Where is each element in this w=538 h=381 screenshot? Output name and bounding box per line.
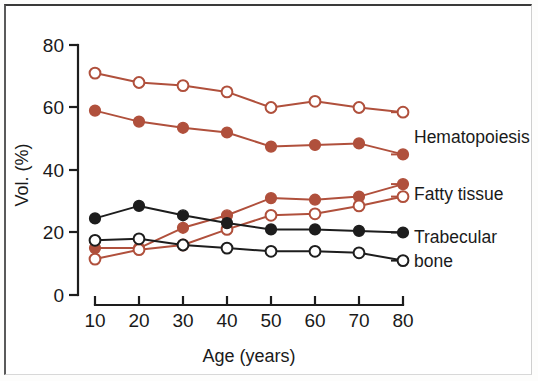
data-point bbox=[398, 227, 409, 238]
data-point bbox=[398, 191, 409, 202]
data-point bbox=[266, 141, 277, 152]
data-point bbox=[90, 254, 101, 265]
x-tick-label-60: 60 bbox=[304, 310, 325, 331]
data-point bbox=[134, 244, 145, 255]
x-tick-labels: 10 20 30 40 50 60 70 80 bbox=[84, 310, 413, 331]
x-tick-label-70: 70 bbox=[348, 310, 369, 331]
data-point bbox=[134, 116, 145, 127]
data-point bbox=[90, 213, 101, 224]
data-point bbox=[398, 179, 409, 190]
y-tick-label-0: 0 bbox=[53, 285, 64, 306]
data-point bbox=[310, 246, 321, 257]
data-point bbox=[354, 226, 365, 237]
y-tick-label-20: 20 bbox=[43, 222, 64, 243]
data-point bbox=[266, 210, 277, 221]
x-tick-label-30: 30 bbox=[172, 310, 193, 331]
data-point bbox=[354, 138, 365, 149]
x-tick-label-80: 80 bbox=[392, 310, 413, 331]
data-point bbox=[90, 68, 101, 79]
data-point bbox=[222, 87, 233, 98]
y-axis-title: Vol. (%) bbox=[12, 143, 32, 206]
y-tick-label-80: 80 bbox=[43, 35, 64, 56]
data-point bbox=[222, 243, 233, 254]
x-tick-label-40: 40 bbox=[216, 310, 237, 331]
data-point bbox=[266, 224, 277, 235]
data-point bbox=[354, 201, 365, 212]
data-point bbox=[266, 193, 277, 204]
series-annotations: Hematopoiesis Fatty tissue Trabecular bo… bbox=[414, 127, 530, 271]
chart-page: 80 60 40 20 0 10 20 30 40 50 60 70 80 bbox=[0, 0, 538, 381]
data-point bbox=[310, 96, 321, 107]
data-point bbox=[266, 246, 277, 257]
data-point bbox=[178, 122, 189, 133]
series-label-trabecular: Trabecular bbox=[414, 227, 497, 247]
data-point bbox=[178, 210, 189, 221]
series-layer bbox=[90, 68, 409, 266]
data-point bbox=[134, 77, 145, 88]
data-point bbox=[178, 222, 189, 233]
data-point bbox=[178, 80, 189, 91]
series-hematopoiesis-open bbox=[90, 68, 409, 118]
y-tick-label-40: 40 bbox=[43, 160, 64, 181]
x-tick-label-20: 20 bbox=[128, 310, 149, 331]
y-axis bbox=[69, 45, 78, 295]
data-point bbox=[222, 127, 233, 138]
series-label-bone: bone bbox=[414, 251, 453, 271]
x-tick-label-10: 10 bbox=[84, 310, 105, 331]
data-point bbox=[266, 102, 277, 113]
data-point bbox=[310, 194, 321, 205]
y-tick-label-60: 60 bbox=[43, 97, 64, 118]
data-point bbox=[178, 240, 189, 251]
data-point bbox=[398, 149, 409, 160]
x-tick-label-50: 50 bbox=[260, 310, 281, 331]
x-axis-title: Age (years) bbox=[202, 346, 295, 366]
bone-marrow-composition-chart: 80 60 40 20 0 10 20 30 40 50 60 70 80 bbox=[0, 0, 538, 381]
data-point bbox=[134, 201, 145, 212]
x-axis bbox=[95, 296, 403, 305]
data-point bbox=[310, 224, 321, 235]
data-point bbox=[310, 208, 321, 219]
y-tick-labels: 80 60 40 20 0 bbox=[43, 35, 64, 306]
data-point bbox=[354, 102, 365, 113]
data-point bbox=[398, 107, 409, 118]
data-point bbox=[134, 233, 145, 244]
data-point bbox=[354, 247, 365, 258]
data-point bbox=[310, 140, 321, 151]
data-point bbox=[90, 235, 101, 246]
series-label-fatty-tissue: Fatty tissue bbox=[414, 184, 503, 204]
data-point bbox=[398, 255, 409, 266]
data-point bbox=[222, 218, 233, 229]
data-point bbox=[90, 105, 101, 116]
series-label-hematopoiesis: Hematopoiesis bbox=[414, 127, 530, 147]
